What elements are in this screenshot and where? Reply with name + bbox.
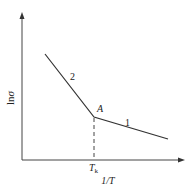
segment-1-label: 1 [125, 117, 130, 128]
diagram: lnσ 1/T Tk A 1 2 [0, 0, 190, 189]
y-axis [20, 12, 25, 160]
tick-label-tk: Tk [89, 162, 99, 175]
y-axis-label: lnσ [4, 90, 16, 105]
segment-2-label: 2 [70, 71, 75, 82]
x-axis-label: 1/T [101, 175, 116, 186]
x-axis [22, 158, 185, 163]
point-a-label: A [96, 103, 104, 114]
data-line [45, 54, 168, 139]
